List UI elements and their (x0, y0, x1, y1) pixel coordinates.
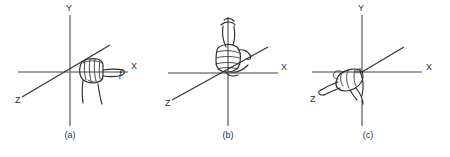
force-label: f (119, 69, 122, 79)
x-axis-label: X (426, 63, 432, 72)
panel-caption-a: (a) (50, 131, 90, 140)
x-axis-label: X (131, 62, 137, 71)
figure-canvas: Y X Z f (a) (0, 0, 450, 157)
hand-fist-pointing-right (80, 59, 125, 104)
hand-fist-thumb-up (216, 19, 251, 76)
z-axis-line (362, 47, 404, 72)
y-axis-label: Y (66, 4, 72, 13)
z-axis-line (22, 45, 110, 97)
panel-c: Y X Z (c) (300, 0, 450, 157)
z-axis-label: Z (310, 95, 316, 104)
panel-b: X Z (b) (150, 0, 300, 157)
z-axis-label: Z (15, 96, 21, 105)
hand-fist-pointing-lower-left (319, 68, 363, 104)
x-axis-label: X (281, 63, 287, 72)
panel-a: Y X Z f (a) (0, 0, 150, 157)
z-axis-label: Z (165, 99, 171, 108)
y-axis-label: Y (358, 4, 364, 13)
panel-caption-c: (c) (348, 131, 388, 140)
panel-caption-b: (b) (208, 131, 248, 140)
